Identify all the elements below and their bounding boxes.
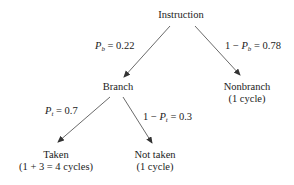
node-nonbranch-label: Nonbranch [224, 81, 271, 93]
value-text: = 0.7 [53, 105, 77, 116]
node-branch-label: Branch [103, 81, 133, 92]
node-nonbranch: Nonbranch (1 cycle) [224, 81, 271, 105]
node-nonbranch-detail: (1 cycle) [224, 93, 271, 105]
value-text: = 0.3 [168, 111, 192, 122]
prefix-text: 1 − [225, 40, 241, 51]
edge-label-pt: Pt = 0.7 [45, 105, 78, 120]
node-taken-label: Taken [19, 149, 93, 161]
node-taken-detail: (1 + 3 = 4 cycles) [19, 161, 93, 173]
node-not-taken-detail: (1 cycle) [134, 161, 175, 173]
edge-label-pb: Pb = 0.22 [95, 40, 134, 55]
edge-label-one-minus-pt: 1 − Pt = 0.3 [143, 111, 192, 126]
node-branch: Branch [103, 81, 133, 93]
value-text: = 0.22 [105, 40, 135, 51]
prefix-text: 1 − [143, 111, 159, 122]
node-instruction: Instruction [158, 9, 204, 21]
node-not-taken-label: Not taken [134, 149, 175, 161]
node-instruction-label: Instruction [158, 9, 204, 20]
node-taken: Taken (1 + 3 = 4 cycles) [19, 149, 93, 173]
value-text: = 0.78 [251, 40, 281, 51]
edge-label-one-minus-pb: 1 − Pb = 0.78 [225, 40, 281, 55]
node-not-taken: Not taken (1 cycle) [134, 149, 175, 173]
